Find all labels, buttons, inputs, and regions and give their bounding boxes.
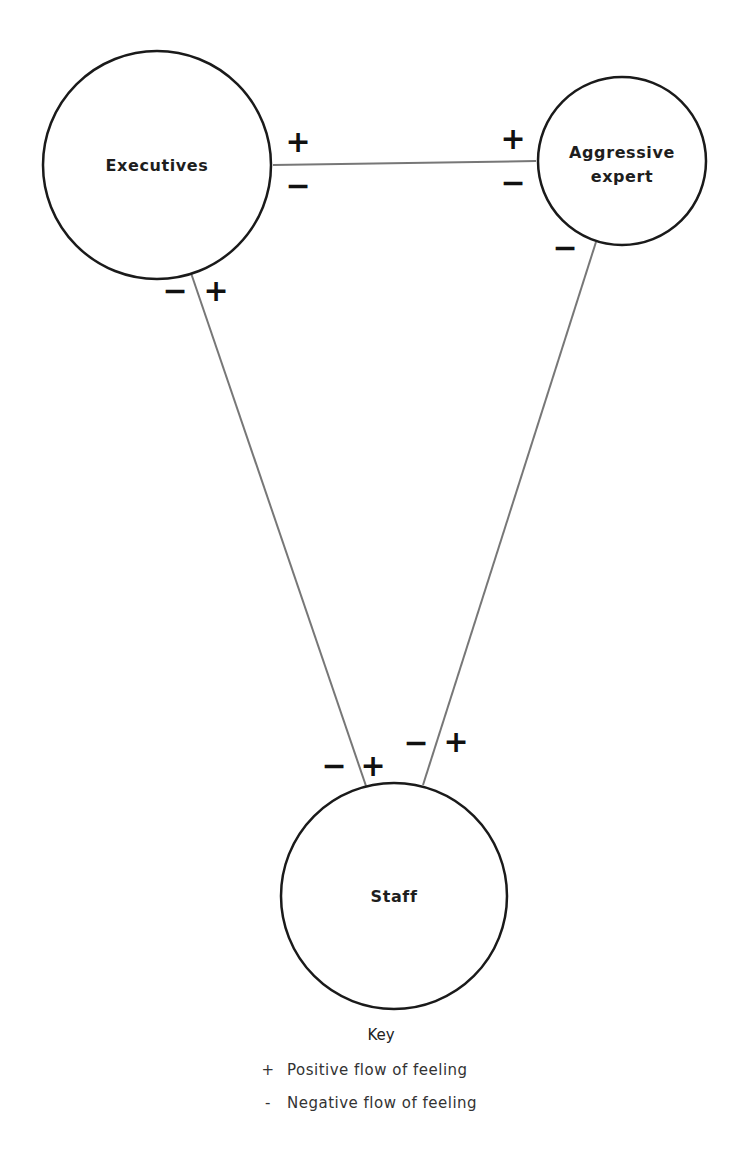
legend-symbol-negative: - xyxy=(265,1094,271,1112)
plus-sign: + xyxy=(360,748,385,783)
relationship-diagram: Executives Aggressive expert Staff + − +… xyxy=(0,0,746,1150)
node-executives: Executives xyxy=(43,51,271,279)
connector-expert-staff xyxy=(423,242,596,785)
plus-sign: + xyxy=(500,121,525,156)
connector-executives-expert xyxy=(273,161,536,165)
plus-sign: + xyxy=(203,273,228,308)
legend-symbol-positive: + xyxy=(261,1061,274,1079)
aggressive-expert-label-line1: Aggressive xyxy=(569,143,675,162)
minus-sign: − xyxy=(162,273,187,308)
aggressive-expert-label-line2: expert xyxy=(591,167,654,186)
connector-executives-staff xyxy=(191,273,366,786)
minus-sign: − xyxy=(321,748,346,783)
minus-sign: − xyxy=(403,725,428,760)
plus-sign: + xyxy=(285,124,310,159)
node-aggressive-expert: Aggressive expert xyxy=(538,77,706,245)
plus-sign: + xyxy=(443,724,468,759)
legend-title: Key xyxy=(367,1026,394,1044)
legend: Key + Positive flow of feeling - Negativ… xyxy=(261,1026,477,1112)
staff-label: Staff xyxy=(371,887,418,906)
minus-sign: − xyxy=(500,165,525,200)
node-staff: Staff xyxy=(281,783,507,1009)
executives-label: Executives xyxy=(106,156,209,175)
legend-label-positive: Positive flow of feeling xyxy=(287,1061,468,1079)
minus-sign: − xyxy=(552,230,577,265)
minus-sign: − xyxy=(285,168,310,203)
legend-label-negative: Negative flow of feeling xyxy=(287,1094,477,1112)
